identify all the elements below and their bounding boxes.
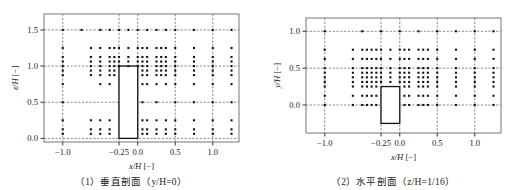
svg-text:1.0: 1.0 xyxy=(289,26,300,36)
svg-text:0.5: 0.5 xyxy=(27,97,38,107)
scatter-plot-horizontal: −1.0−0.250.00.51.00.00.51.0x/H [−]y/H [−… xyxy=(262,0,524,190)
panel-horizontal-section: −1.0−0.250.00.51.00.00.51.0x/H [−]y/H [−… xyxy=(262,0,524,190)
scatter-plot-vertical: −1.0−0.250.00.51.00.00.51.01.5x/H [−]z/H… xyxy=(0,0,262,190)
svg-text:−0.25: −0.25 xyxy=(109,147,129,157)
svg-text:−0.25: −0.25 xyxy=(371,138,391,148)
figure-two-panel-measurement-grid: −1.0−0.250.00.51.00.00.51.01.5x/H [−]z/H… xyxy=(0,0,524,190)
svg-text:0.0: 0.0 xyxy=(132,147,143,157)
svg-text:−1.0: −1.0 xyxy=(317,138,333,148)
svg-text:1.0: 1.0 xyxy=(207,147,218,157)
obstacle-outline xyxy=(119,66,138,138)
svg-text:1.5: 1.5 xyxy=(27,25,38,35)
plot-horizontal-section: −1.0−0.250.00.51.00.00.51.0x/H [−]y/H [−… xyxy=(262,0,524,190)
gridlines xyxy=(44,14,239,142)
svg-text:0.0: 0.0 xyxy=(394,138,405,148)
x-axis-title: x/H [−] xyxy=(128,161,154,171)
svg-text:1.0: 1.0 xyxy=(469,138,480,148)
svg-text:−1.0: −1.0 xyxy=(55,147,71,157)
data-points xyxy=(62,29,233,135)
y-axis-title: y/H [−] xyxy=(272,63,282,89)
svg-text:1.0: 1.0 xyxy=(27,61,38,71)
plot-vertical-section: −1.0−0.250.00.51.00.00.51.01.5x/H [−]z/H… xyxy=(0,0,262,190)
x-axis-title: x/H [−] xyxy=(390,152,416,162)
axes-frame xyxy=(44,14,239,142)
y-axis-title: z/H [−] xyxy=(10,66,20,92)
obstacle-outline xyxy=(381,87,400,124)
svg-text:0.0: 0.0 xyxy=(27,133,38,143)
panel-vertical-section: −1.0−0.250.00.51.00.00.51.01.5x/H [−]z/H… xyxy=(0,0,262,190)
axes-frame xyxy=(306,18,501,133)
svg-text:0.0: 0.0 xyxy=(289,100,300,110)
svg-text:0.5: 0.5 xyxy=(289,63,300,73)
panel-caption-horizontal: （2）水平剖面（z/H=1/16） xyxy=(262,174,524,188)
svg-text:0.5: 0.5 xyxy=(170,147,181,157)
svg-text:0.5: 0.5 xyxy=(432,138,443,148)
gridlines xyxy=(306,18,501,133)
panel-caption-vertical: （1）垂直剖面（y/H=0） xyxy=(0,174,262,188)
